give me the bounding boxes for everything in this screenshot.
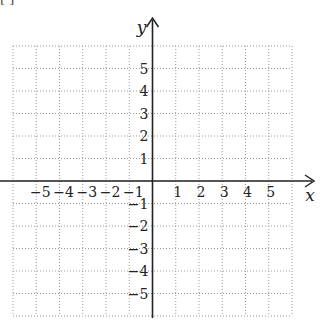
tick-labels: xy−5−4−3−2−11234554321−1−2−3−4−5 bbox=[30, 17, 315, 302]
y-tick-label: −4 bbox=[128, 263, 149, 279]
x-tick-label: −4 bbox=[53, 184, 74, 200]
x-tick-label: 2 bbox=[197, 184, 206, 200]
y-axis-label: y bbox=[136, 17, 147, 37]
x-tick-label: 5 bbox=[266, 184, 275, 200]
y-tick-label: −2 bbox=[128, 218, 149, 234]
x-tick-label: −3 bbox=[76, 184, 97, 200]
x-tick-label: 3 bbox=[220, 184, 229, 200]
y-tick-label: 4 bbox=[140, 83, 149, 99]
y-tick-label: −1 bbox=[128, 196, 149, 212]
axes bbox=[0, 18, 314, 318]
y-tick-label: 5 bbox=[140, 61, 149, 77]
x-axis-label: x bbox=[305, 185, 315, 205]
x-tick-label: −2 bbox=[100, 184, 121, 200]
x-tick-label: 1 bbox=[173, 184, 182, 200]
y-tick-label: 3 bbox=[140, 106, 149, 122]
x-tick-label: −5 bbox=[30, 184, 51, 200]
coordinate-plane: xy−5−4−3−2−11234554321−1−2−3−4−5 bbox=[0, 0, 322, 324]
y-tick-label: 1 bbox=[140, 151, 149, 167]
y-tick-label: −3 bbox=[128, 241, 149, 257]
y-tick-label: −5 bbox=[128, 286, 149, 302]
x-tick-label: 4 bbox=[243, 184, 252, 200]
y-tick-label: 2 bbox=[140, 128, 149, 144]
